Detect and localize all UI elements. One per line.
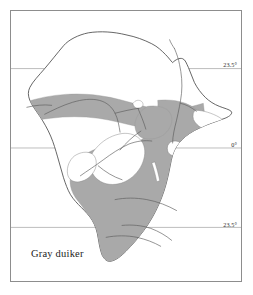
river-nile-delta (170, 40, 175, 49)
latitude-label-tropic-of-cancer: 23.5° (223, 62, 237, 68)
lake-malawi (173, 186, 181, 208)
map-frame: 23.5° 0° 23.5° Gray duiker (10, 10, 242, 282)
distribution-map-figure: 23.5° 0° 23.5° Gray duiker (0, 0, 253, 295)
map-caption: Gray duiker (31, 248, 84, 259)
africa-map-svg (11, 11, 241, 281)
latitude-label-equator: 0° (231, 142, 237, 148)
latitude-label-tropic-of-capricorn: 23.5° (223, 222, 237, 228)
